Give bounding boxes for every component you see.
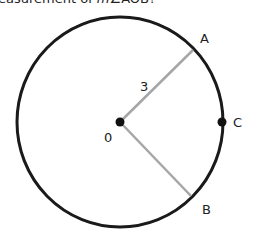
point-c-label: C [233, 115, 242, 130]
point-c-dot [218, 118, 227, 127]
point-b-label: B [202, 202, 211, 217]
point-a-label: A [200, 31, 209, 46]
circle-diagram: 0 A B C 3 [0, 0, 256, 239]
center-label: 0 [104, 130, 112, 145]
radius-length-label: 3 [140, 79, 148, 94]
radius-oa [120, 50, 193, 122]
center-point-dot [116, 118, 125, 127]
radius-ob [120, 122, 191, 196]
